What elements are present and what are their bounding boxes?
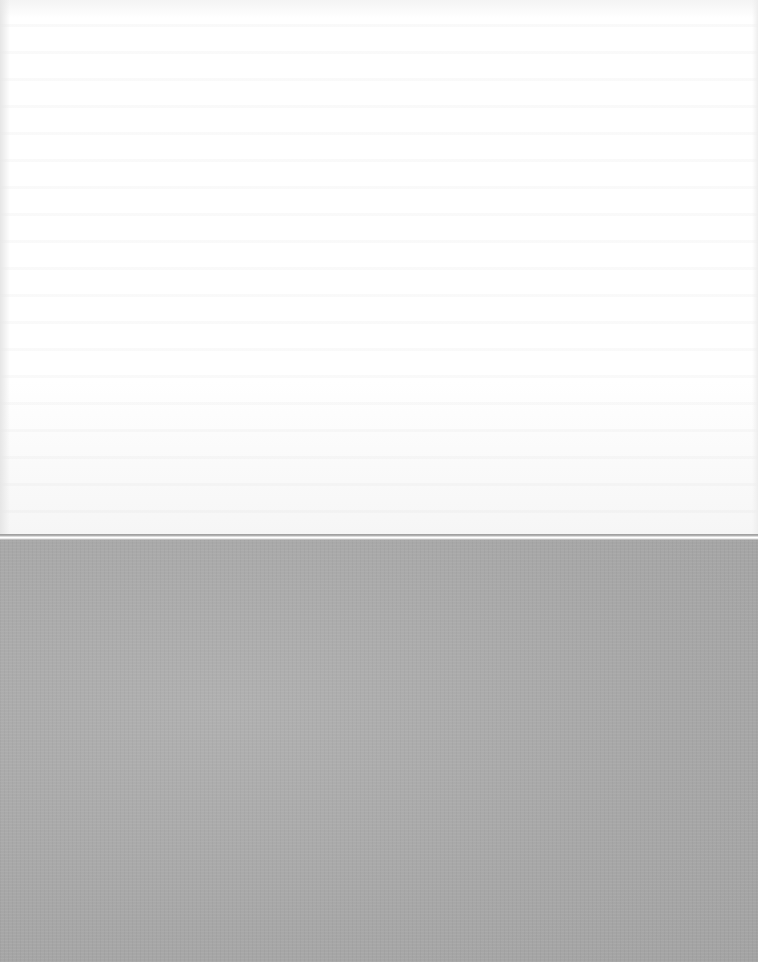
blank-paper-page xyxy=(0,0,758,534)
gray-textured-backing xyxy=(0,540,758,962)
